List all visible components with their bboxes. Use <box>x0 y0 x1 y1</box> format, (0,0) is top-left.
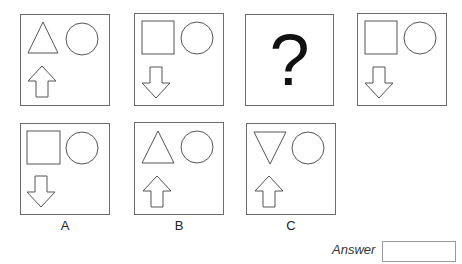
circle-icon <box>404 22 436 54</box>
arrow-down-icon <box>142 67 170 98</box>
sequence-panel-1 <box>20 14 110 106</box>
sequence-panel-4 <box>357 13 447 106</box>
arrow-up-icon <box>255 176 283 207</box>
circle-icon <box>66 132 98 164</box>
circle-icon <box>181 22 213 54</box>
answer-input[interactable] <box>382 241 456 262</box>
panel-figure <box>21 15 111 107</box>
arrow-down-icon <box>365 67 393 98</box>
option-c-label: C <box>281 218 301 233</box>
square-icon <box>365 21 397 54</box>
arrow-down-icon <box>27 176 55 207</box>
arrow-up-icon <box>28 66 56 97</box>
arrow-up-icon <box>143 176 171 207</box>
option-a-label: A <box>55 218 75 233</box>
option-c-panel[interactable] <box>246 123 336 215</box>
option-b-panel[interactable] <box>134 122 224 215</box>
panel-figure <box>247 124 337 216</box>
square-icon <box>142 21 174 54</box>
triangle-down-icon <box>254 132 286 164</box>
circle-icon <box>181 131 213 163</box>
panel-figure <box>135 123 225 216</box>
panel-figure <box>21 124 111 216</box>
triangle-up-icon <box>142 131 174 163</box>
question-mark: ? <box>246 15 333 105</box>
panel-figure <box>135 14 225 107</box>
circle-icon <box>66 23 98 55</box>
panel-figure <box>358 14 448 107</box>
sequence-panel-3-missing: ? <box>245 14 334 106</box>
circle-icon <box>292 132 324 164</box>
triangle-up-icon <box>28 22 58 53</box>
sequence-panel-2 <box>134 13 224 106</box>
answer-label: Answer <box>332 242 375 257</box>
square-icon <box>27 131 60 164</box>
option-b-label: B <box>169 218 189 233</box>
option-a-panel[interactable] <box>20 123 110 215</box>
